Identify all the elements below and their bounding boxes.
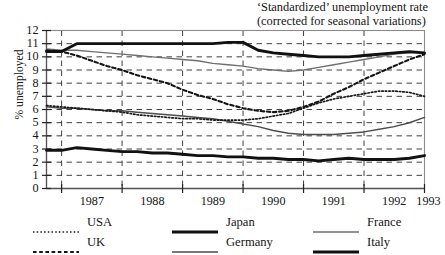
x-tick-label-1988: 1988 [124, 195, 180, 207]
y-tick-label-8: 8 [13, 77, 39, 89]
legend-swatch-japan [172, 221, 218, 226]
y-tick-label-5: 5 [13, 116, 39, 128]
legend-label-usa: USA [87, 214, 112, 231]
y-tick-label-3: 3 [13, 143, 39, 155]
x-tick-label-1989: 1989 [185, 195, 241, 207]
legend-label-france: France [367, 214, 401, 231]
chart-legend: USAUKJapanGermanyFranceItaly [0, 212, 434, 255]
y-tick-label-0: 0 [13, 182, 39, 194]
y-tick-label-6: 6 [13, 103, 39, 115]
legend-swatch-italy [313, 241, 359, 246]
y-tick-label-7: 7 [13, 90, 39, 102]
series-line-usa [47, 91, 425, 120]
y-tick-label-4: 4 [13, 129, 39, 141]
y-tick-label-10: 10 [13, 50, 39, 62]
legend-label-uk: UK [87, 234, 105, 251]
data-series-group [47, 42, 425, 161]
x-tick-label-1987: 1987 [64, 195, 120, 207]
legend-swatch-uk [33, 241, 79, 246]
series-line-japan [47, 148, 425, 161]
series-line-uk [47, 50, 425, 112]
legend-label-italy: Italy [367, 234, 390, 251]
legend-swatch-germany [172, 241, 218, 246]
x-tick-label-1990: 1990 [245, 195, 301, 207]
y-tick-label-9: 9 [13, 64, 39, 76]
y-tick-label-1: 1 [13, 169, 39, 181]
legend-swatch-usa [33, 221, 79, 226]
y-tick-label-11: 11 [13, 37, 39, 49]
legend-swatch-france [313, 221, 359, 226]
series-line-france [47, 49, 425, 71]
x-tick-label-1993: 1993 [401, 195, 445, 207]
y-tick-label-2: 2 [13, 156, 39, 168]
y-tick-label-12: 12 [13, 24, 39, 36]
legend-label-japan: Japan [226, 214, 255, 231]
x-tick-label-1991: 1991 [306, 195, 362, 207]
series-line-italy [47, 42, 425, 56]
legend-label-germany: Germany [226, 234, 273, 251]
